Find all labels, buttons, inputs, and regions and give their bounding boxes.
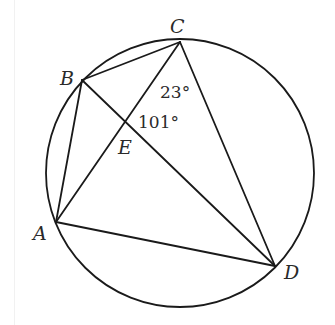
label-point-E: E <box>117 136 132 158</box>
segment-DA <box>56 222 275 266</box>
label-point-C: C <box>170 15 185 37</box>
label-point-D: D <box>283 261 299 283</box>
angle-label-101: 101° <box>138 112 179 132</box>
diagonal-BD <box>82 80 275 266</box>
angle-label-23: 23° <box>160 82 190 102</box>
label-point-B: B <box>59 67 74 89</box>
label-point-A: A <box>31 222 47 244</box>
segment-AB <box>56 80 82 222</box>
diagonal-AC <box>56 42 180 222</box>
geometry-diagram: C B A D E 23° 101° <box>0 0 335 325</box>
segment-CD <box>180 42 275 266</box>
